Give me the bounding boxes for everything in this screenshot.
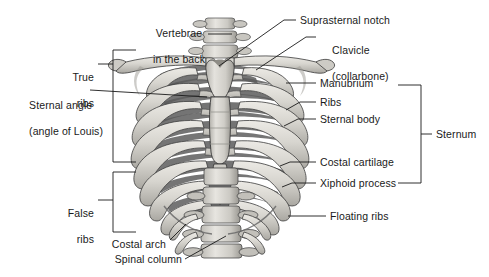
figure-canvas: Vertebrae in the back Suprasternal notch…: [0, 0, 489, 277]
label-ribs: Ribs: [320, 96, 341, 109]
label-xiphoid-process: Xiphoid process: [320, 177, 396, 190]
sternal-body-shape: [210, 97, 231, 164]
label-sternal-angle: Sternal angle (angle of Louis): [17, 86, 103, 151]
label-costal-arch: Costal arch: [80, 238, 166, 251]
label-floating-ribs: Floating ribs: [330, 210, 389, 223]
label-sternum: Sternum: [436, 128, 476, 141]
label-spinal-column: Spinal column: [70, 253, 182, 266]
bracket-false-ribs: [98, 172, 136, 232]
label-sternal-body: Sternal body: [320, 113, 380, 126]
label-manubrium: Manubrium: [320, 77, 373, 90]
label-vertebrae-in-the-back: Vertebrae in the back: [138, 14, 208, 79]
bracket-sternum: [398, 85, 432, 183]
label-costal-cartilage: Costal cartilage: [320, 156, 394, 169]
label-suprasternal-notch: Suprasternal notch: [300, 14, 390, 27]
